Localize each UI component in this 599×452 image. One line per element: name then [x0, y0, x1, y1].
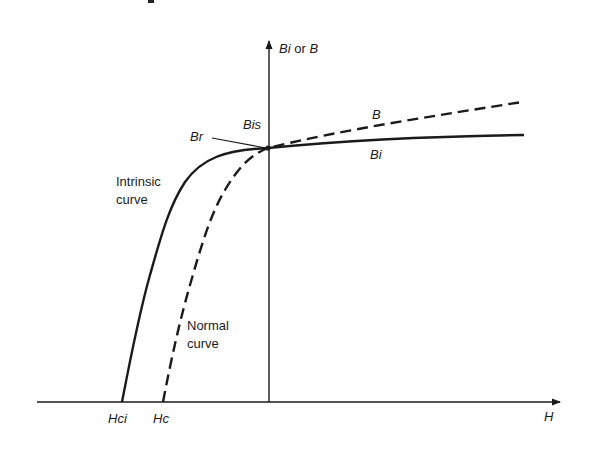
normal-curve-label-line2: curve — [187, 337, 219, 350]
intrinsic-curve — [122, 135, 524, 402]
y-axis-label-or: or — [294, 41, 306, 56]
hc-label: Hc — [153, 412, 169, 425]
x-axis-label: H — [544, 410, 553, 423]
y-axis-label: Bi or B — [279, 42, 318, 55]
br-point — [265, 145, 270, 150]
y-axis-label-bi: Bi — [279, 41, 291, 56]
normal-curve — [163, 102, 522, 402]
bi-curve-label: Bi — [370, 148, 382, 161]
br-label: Br — [190, 130, 203, 143]
b-curve-label: B — [372, 108, 381, 121]
br-leader-line — [212, 138, 266, 148]
y-axis-label-b: B — [309, 41, 318, 56]
intrinsic-curve-label-line2: curve — [116, 193, 148, 206]
hci-label: Hci — [108, 412, 127, 425]
normal-curve-label-line1: Normal — [187, 319, 229, 332]
intrinsic-curve-label-line1: Intrinsic — [116, 175, 161, 188]
demagnetization-diagram — [0, 0, 599, 452]
bis-label: Bis — [243, 118, 261, 131]
